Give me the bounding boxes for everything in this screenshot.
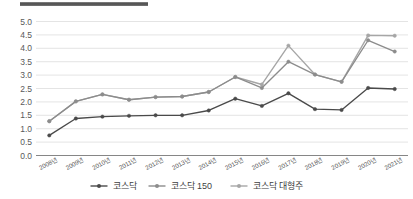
- x-axis-tick-label: 2015년: [224, 156, 245, 171]
- data-point: [313, 73, 316, 76]
- x-axis-tick-label: 2020년: [357, 156, 378, 171]
- data-point: [154, 114, 157, 117]
- x-axis-tick-label: 2012년: [144, 156, 165, 171]
- x-axis-tick-label: 2019년: [330, 156, 351, 171]
- data-point: [366, 34, 369, 37]
- x-axis-tick-label: 2008년: [38, 156, 59, 171]
- data-point: [260, 86, 263, 89]
- data-point: [207, 90, 210, 93]
- legend-label: 코스닥 대형주: [253, 181, 304, 191]
- line-chart: 0.00.51.01.52.02.53.03.54.04.55.0 2008년2…: [0, 0, 413, 199]
- y-axis-tick-label: 2.5: [20, 84, 32, 94]
- y-axis-labels: 0.00.51.01.52.02.53.03.54.04.55.0: [20, 17, 32, 161]
- legend-label: 코스닥: [113, 181, 137, 191]
- data-point: [340, 108, 343, 111]
- legend-marker: [155, 184, 159, 188]
- x-axis-tick-label: 2010년: [91, 156, 112, 171]
- y-axis-tick-label: 1.0: [20, 124, 32, 134]
- y-axis-tick-label: 1.5: [20, 110, 32, 120]
- data-point: [234, 97, 237, 100]
- legend-item-0[interactable]: 코스닥: [91, 181, 137, 191]
- data-point: [393, 34, 396, 37]
- data-point: [154, 95, 157, 98]
- data-point: [313, 107, 316, 110]
- data-point: [180, 114, 183, 117]
- data-point: [287, 44, 290, 47]
- data-point: [366, 39, 369, 42]
- legend-label: 코스닥 150: [171, 181, 213, 191]
- x-axis-tick-label: 2013년: [171, 156, 192, 171]
- data-point: [340, 80, 343, 83]
- data-point: [48, 134, 51, 137]
- data-point: [260, 83, 263, 86]
- data-point: [48, 119, 51, 122]
- chart-legend: 코스닥코스닥 150코스닥 대형주: [91, 181, 304, 191]
- data-point: [101, 115, 104, 118]
- x-axis-labels: 2008년2009년2010년2011년2012년2013년2014년2015년…: [38, 156, 404, 171]
- x-axis-tick-label: 2009년: [64, 156, 85, 171]
- data-point: [101, 93, 104, 96]
- data-point: [366, 86, 369, 89]
- legend-marker: [237, 184, 241, 188]
- data-point: [127, 114, 130, 117]
- legend-item-1[interactable]: 코스닥 150: [149, 181, 213, 191]
- series-0: [48, 86, 397, 137]
- x-axis-tick-label: 2017년: [277, 156, 298, 171]
- data-point: [287, 60, 290, 63]
- data-point: [393, 87, 396, 90]
- data-point: [260, 104, 263, 107]
- data-point: [207, 109, 210, 112]
- y-axis-tick-label: 0.0: [20, 151, 32, 161]
- data-point: [234, 75, 237, 78]
- y-axis-tick-label: 3.0: [20, 70, 32, 80]
- legend-marker: [97, 184, 101, 188]
- data-point: [180, 95, 183, 98]
- data-point: [74, 100, 77, 103]
- x-axis-tick-label: 2016년: [250, 156, 271, 171]
- y-axis-tick-label: 4.0: [20, 43, 32, 53]
- x-axis-tick-label: 2011년: [118, 156, 138, 171]
- legend-item-2[interactable]: 코스닥 대형주: [231, 181, 304, 191]
- x-axis-tick-label: 2014년: [197, 156, 218, 171]
- series-1: [48, 39, 397, 123]
- data-point: [74, 117, 77, 120]
- x-axis-tick-label: 2021년: [383, 156, 404, 171]
- x-axis-tick-label: 2018년: [303, 156, 324, 171]
- data-point: [127, 98, 130, 101]
- y-axis-tick-label: 0.5: [20, 137, 32, 147]
- data-point: [393, 50, 396, 53]
- y-axis-tick-label: 2.0: [20, 97, 32, 107]
- y-axis-tick-label: 4.5: [20, 30, 32, 40]
- y-axis-tick-label: 3.5: [20, 57, 32, 67]
- y-axis-tick-label: 5.0: [20, 17, 32, 27]
- data-point: [287, 92, 290, 95]
- gridlines: [36, 22, 408, 156]
- series-layer: [48, 34, 397, 137]
